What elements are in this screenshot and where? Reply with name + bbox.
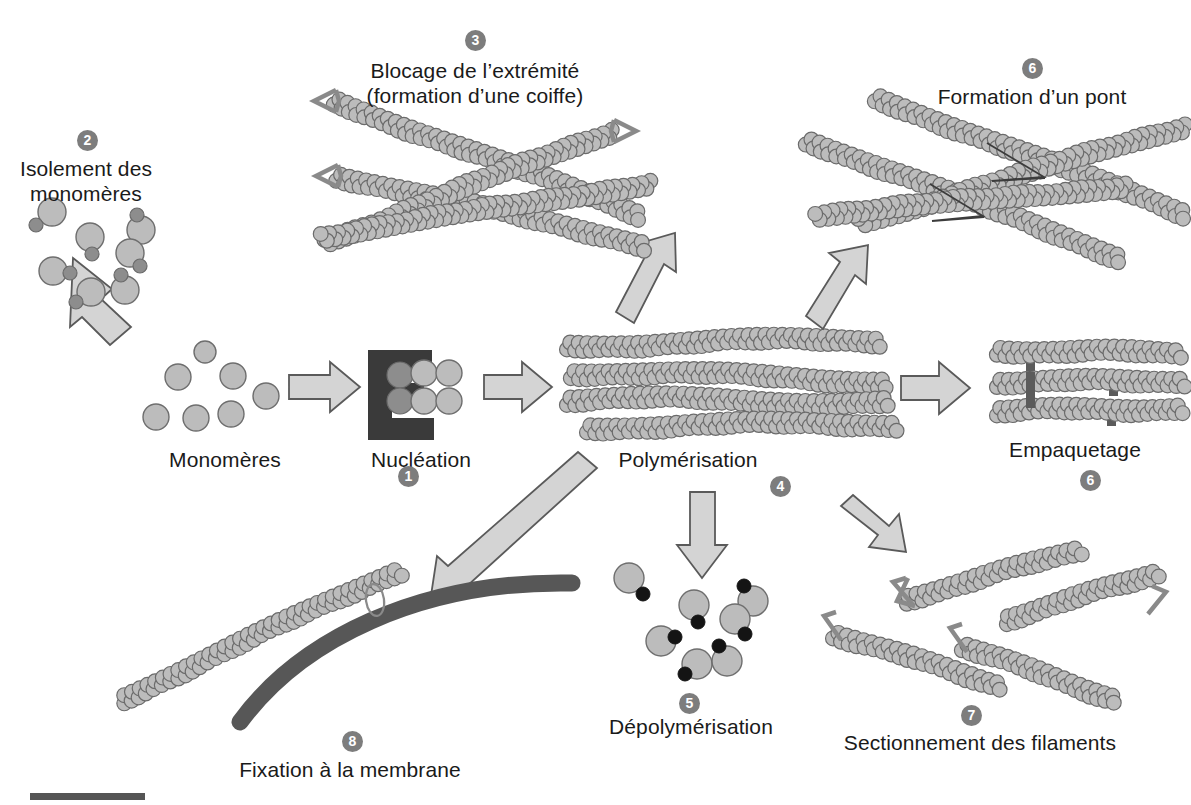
polymerization-bundle — [559, 327, 903, 441]
label-fixation: Fixation à la membrane — [205, 757, 495, 782]
scale-bar — [30, 793, 145, 800]
arrow-nucleation-to-polymerization — [484, 362, 552, 412]
badge-step-7: 7 — [961, 705, 982, 726]
badge-step-6-bridge: 6 — [1022, 58, 1043, 79]
label-isolement-line1: Isolement des — [0, 156, 172, 181]
nucleation-complex — [368, 350, 462, 440]
released-monomers — [614, 563, 768, 681]
severed-filaments — [824, 541, 1166, 710]
label-nucleation: Nucléation — [341, 447, 501, 472]
diagram-svg: .mono{fill:#bcbcbc;stroke:#6e6e6e;stroke… — [0, 0, 1191, 805]
badge-step-3: 3 — [465, 30, 486, 51]
badge-step-4: 4 — [770, 476, 791, 497]
label-empaquetage: Empaquetage — [975, 437, 1175, 462]
bundled-filaments — [989, 339, 1191, 426]
badge-step-1: 1 — [398, 466, 419, 487]
membrane-anchored-filament — [117, 563, 572, 722]
figure-canvas: .mono{fill:#bcbcbc;stroke:#6e6e6e;stroke… — [0, 0, 1191, 805]
arrow-poly-to-bridging — [806, 245, 868, 329]
arrow-poly-to-depolymerization — [677, 492, 727, 578]
label-polymerisation: Polymérisation — [588, 447, 788, 472]
arrow-monomers-to-nucleation — [289, 362, 360, 412]
label-blocage-line1: Blocage de l’extrémité — [340, 58, 610, 83]
badge-step-8: 8 — [342, 731, 363, 752]
badge-step-6-bundle: 6 — [1080, 470, 1101, 491]
monomer-pool — [143, 341, 279, 431]
sequestered-monomers — [29, 198, 155, 309]
label-blocage-line2: (formation d’une coiffe) — [340, 83, 610, 108]
label-depolymerisation: Dépolymérisation — [586, 714, 796, 739]
arrow-poly-to-bundling — [901, 362, 970, 414]
label-monomeres: Monomères — [135, 447, 315, 472]
badge-step-2: 2 — [77, 130, 98, 151]
label-formation-pont: Formation d’un pont — [912, 84, 1152, 109]
arrow-poly-to-severing — [841, 495, 906, 552]
label-isolement-line2: monomères — [0, 181, 172, 206]
badge-step-5: 5 — [679, 693, 700, 714]
cross-linked-filaments — [798, 89, 1191, 270]
label-sectionnement: Sectionnement des filaments — [830, 730, 1130, 755]
capped-filaments — [313, 90, 657, 258]
